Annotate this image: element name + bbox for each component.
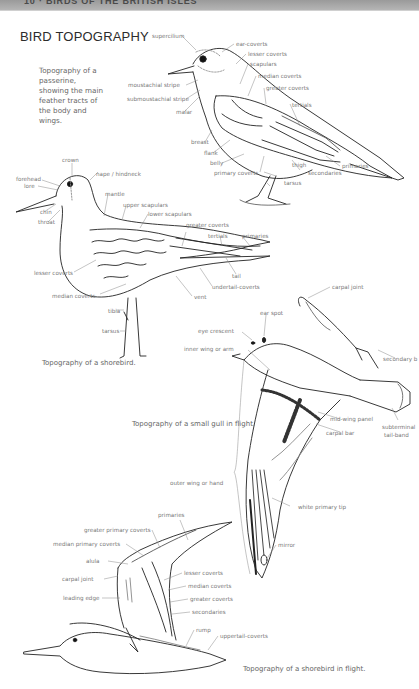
label-lesser-coverts-shorebird: lesser coverts [34,270,73,276]
label-leading-edge: leading edge [63,595,99,601]
shorebird-flight-caption: Topography of a shorebird in flight. [243,665,365,673]
label-carpal-bar: carpal bar [326,430,354,436]
label-breast: breast [191,139,209,145]
label-tarsus: tarsus [284,180,301,186]
label-moustachial-stripe: moustachial stripe [128,82,180,88]
label-carpal-joint-flight: carpal joint [62,576,93,582]
label-upper-scapulars: upper scapulars [123,202,168,208]
label-nape: nape / hindneck [96,171,141,177]
label-secondaries-flight: secondaries [192,609,226,615]
gull-caption: Topography of a small gull in flight. [132,420,255,428]
label-alula: alula [86,558,100,564]
label-tail: tail [232,273,241,279]
label-belly: belly [210,160,223,166]
label-forehead: forehead [16,176,41,182]
label-supercilium: supercilium [152,33,184,39]
label-greater-coverts-flight: greater coverts [190,596,233,602]
label-tail-band: tail-band [384,432,409,438]
label-mantle: mantle [105,191,125,197]
label-white-primary-tip: white primary tip [298,504,346,510]
label-ear-coverts: ear-coverts [236,41,268,47]
label-lore: lore [24,183,35,189]
label-uppertail-coverts: uppertail-coverts [220,633,268,639]
label-carpal-joint-gull: carpal joint [332,284,363,290]
label-scapulars: scapulars [250,61,277,67]
label-secondary-bar: secondary b [383,356,417,362]
label-median-coverts-flight: median coverts [188,583,231,589]
label-primary-coverts: primary coverts [214,170,258,176]
label-vent: vent [194,294,207,300]
label-mid-wing-panel: mid-wing panel [330,416,373,422]
label-tertials: tertials [292,102,312,108]
label-primaries: primaries [342,163,369,169]
label-chin: chin [40,209,52,215]
label-median-primary-coverts: median primary coverts [53,541,120,547]
label-tertials-shorebird: tertials [208,233,228,239]
label-eye-crescent: eye crescent [198,328,234,334]
label-rump: rump [196,627,211,633]
label-tibia: tibia [108,308,120,314]
label-malar: malar [176,109,192,115]
label-flank: flank [204,150,218,156]
label-mirror: mirror [278,542,295,548]
label-subterminal: subterminal [382,424,415,430]
label-greater-primary-coverts: greater primary coverts [84,527,151,533]
label-throat: throat [38,219,55,225]
label-undertail-coverts: undertail-coverts [212,284,260,290]
label-outer-wing: outer wing or hand [170,480,223,486]
label-greater-coverts: greater coverts [266,85,309,91]
shorebird-caption: Topography of a shorebird. [42,359,136,367]
label-median-coverts-shorebird: median coverts [52,293,95,299]
label-ear-spot: ear spot [260,310,283,316]
label-thigh: thigh [292,162,306,168]
label-primaries-shorebird: primaries [242,233,269,239]
label-greater-coverts-shorebird: greater coverts [186,222,229,228]
label-lesser-coverts-flight: lesser coverts [184,570,223,576]
label-median-coverts: median coverts [258,73,301,79]
label-lower-scapulars: lower scapulars [148,211,192,217]
label-submoustachial-stripe: submoustachial stripe [127,96,189,102]
label-inner-wing: inner wing or arm [184,346,234,352]
label-primaries-flight: primaries [158,512,185,518]
label-crown: crown [62,157,79,163]
label-tarsus-shorebird: tarsus [102,328,119,334]
label-secondaries: secondaries [308,170,342,176]
label-lesser-coverts: lesser coverts [248,51,287,57]
